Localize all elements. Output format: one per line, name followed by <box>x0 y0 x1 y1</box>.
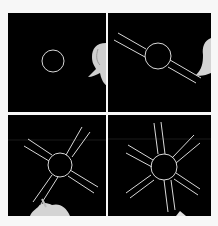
hand-icon <box>88 43 106 85</box>
circle-three-spokes-drawing <box>108 115 211 216</box>
panel-4-three-spokes <box>108 115 211 216</box>
circle-two-spokes-drawing <box>8 115 106 216</box>
panel-2-one-spoke <box>108 13 211 112</box>
hand-icon <box>196 38 211 76</box>
panel-1-circle <box>8 13 106 112</box>
circle-drawing <box>8 13 106 112</box>
panel-3-two-spokes <box>8 115 106 216</box>
fingertip-icon <box>176 211 186 216</box>
hand-icon <box>30 199 70 216</box>
circle-one-spoke-drawing <box>108 13 211 112</box>
